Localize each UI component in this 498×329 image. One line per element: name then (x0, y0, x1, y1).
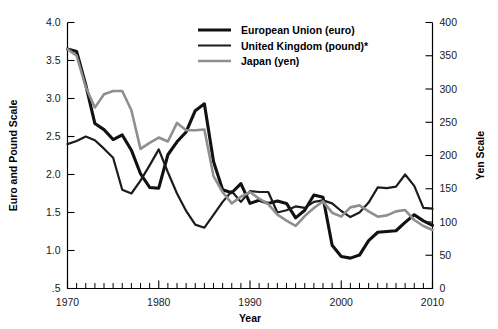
x-tick-label: 1980 (147, 296, 171, 308)
y-left-tick-label: 2.0 (46, 168, 61, 180)
y-left-tick-label: 4.0 (46, 16, 61, 28)
y-right-tick-label: 0 (440, 282, 446, 294)
chart-canvas: 19701980199020002010Year4.03.53.02.52.01… (0, 0, 498, 329)
y-left-tick-label: 2.5 (46, 130, 61, 142)
y-axis-right-ticks: 400350300250200150100500 (426, 16, 458, 294)
x-tick-label: 1970 (56, 296, 80, 308)
chart-legend: European Union (euro)United Kingdom (pou… (198, 24, 369, 67)
series-group (68, 49, 433, 258)
y-right-tick-label: 100 (440, 216, 458, 228)
series-line-0 (68, 49, 433, 258)
series-line-1 (68, 137, 433, 228)
y-right-tick-label: 400 (440, 16, 458, 28)
y-axis-left-title: Euro and Pound Scale (7, 100, 19, 212)
legend-label-2: Japan (yen) (241, 55, 299, 67)
y-right-tick-label: 150 (440, 182, 458, 194)
y-left-tick-label: .5 (52, 282, 61, 294)
y-right-tick-label: 250 (440, 116, 458, 128)
legend-label-1: United Kingdom (pound)* (241, 40, 369, 52)
y-right-tick-label: 50 (440, 249, 452, 261)
y-right-tick-label: 350 (440, 49, 458, 61)
y-left-tick-label: 1.5 (46, 206, 61, 218)
x-axis-minor-ticks (68, 281, 433, 289)
x-tick-label: 2000 (330, 296, 354, 308)
y-right-tick-label: 200 (440, 149, 458, 161)
x-axis-title: Year (239, 312, 261, 324)
y-left-tick-label: 3.0 (46, 92, 61, 104)
legend-label-0: European Union (euro) (241, 24, 355, 36)
currency-exchange-rate-chart: 19701980199020002010Year4.03.53.02.52.01… (0, 0, 498, 329)
x-tick-label: 1990 (238, 296, 262, 308)
x-tick-label: 2010 (421, 296, 445, 308)
y-left-tick-label: 1.0 (46, 244, 61, 256)
x-axis-labels: 19701980199020002010 (56, 296, 445, 308)
y-axis-left-ticks: 4.03.53.02.52.01.51.0.5 (46, 16, 75, 294)
y-axis-right-title: Yen Scale (474, 131, 486, 180)
y-right-tick-label: 300 (440, 83, 458, 95)
y-left-tick-label: 3.5 (46, 54, 61, 66)
